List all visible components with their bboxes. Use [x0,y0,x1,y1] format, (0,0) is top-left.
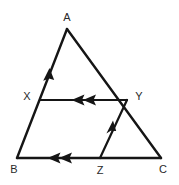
triangle-diagram: A B C X Y Z [0,0,179,185]
vertex-label-X: X [23,90,31,102]
vertex-label-Z: Z [97,164,104,176]
vertex-label-A: A [63,11,71,23]
arrow-XY-double [72,95,97,106]
side-AC-line [67,29,161,158]
arrow-BZ-double [48,153,73,164]
vertex-label-C: C [159,163,167,175]
vertex-label-Y: Y [135,90,143,102]
vertex-label-B: B [10,163,17,175]
geometry-figure: A B C X Y Z [0,0,179,185]
